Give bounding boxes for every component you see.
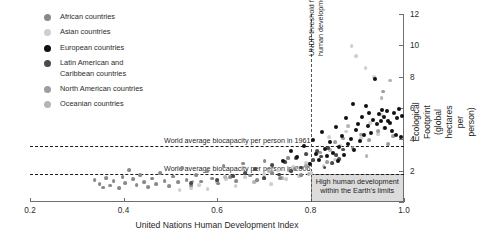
scatter-point	[222, 164, 226, 168]
scatter-point	[216, 182, 220, 186]
scatter-point	[379, 119, 383, 123]
scatter-point	[308, 162, 312, 166]
scatter-point	[325, 160, 329, 164]
y-tick-label: 12	[410, 10, 419, 19]
scatter-point	[350, 44, 354, 48]
scatter-point	[142, 181, 146, 185]
y-tick-mark	[399, 14, 404, 15]
scatter-point	[380, 108, 384, 112]
scatter-point	[121, 175, 125, 179]
scatter-point	[269, 182, 273, 186]
x-tick-mark	[217, 198, 218, 202]
scatter-point	[127, 168, 131, 172]
scatter-point	[171, 175, 175, 179]
scatter-point	[349, 137, 353, 141]
scatter-point	[354, 54, 358, 58]
scatter-point	[150, 177, 154, 181]
scatter-point	[293, 167, 297, 171]
y-tick-label: 10	[410, 41, 419, 50]
scatter-point	[159, 171, 163, 175]
y-tick-label: 8	[410, 72, 415, 81]
y-tick-mark	[399, 77, 404, 78]
y-tick-mark	[399, 45, 404, 46]
scatter-point	[231, 174, 235, 178]
scatter-point	[289, 149, 293, 153]
scatter-point	[234, 179, 238, 183]
scatter-point	[255, 178, 259, 182]
scatter-point	[377, 112, 381, 116]
scatter-point	[362, 133, 366, 137]
scatter-point	[248, 174, 252, 178]
x-axis-label: United Nations Human Development Index	[136, 220, 299, 230]
scatter-point	[224, 175, 228, 179]
scatter-point	[327, 135, 331, 139]
scatter-point	[342, 153, 346, 157]
x-tick-label: 0.8	[305, 206, 316, 215]
scatter-point	[215, 178, 219, 182]
scatter-point	[146, 185, 150, 189]
scatter-point	[375, 122, 379, 126]
scatter-point	[367, 111, 371, 115]
plot-area: High human development within the Earth'…	[30, 14, 404, 202]
scatter-point	[364, 66, 368, 70]
scatter-point	[346, 142, 350, 146]
scatter-point	[299, 173, 303, 177]
scatter-point	[206, 187, 210, 191]
scatter-point	[376, 129, 380, 133]
scatter-point	[323, 166, 327, 170]
scatter-point	[330, 161, 334, 165]
scatter-point	[352, 148, 356, 152]
scatter-point	[337, 145, 341, 149]
scatter-point	[311, 138, 315, 142]
scatter-point	[262, 176, 266, 180]
scatter-point	[382, 90, 386, 94]
scatter-point	[356, 122, 360, 126]
scatter-point	[307, 172, 311, 176]
scatter-point	[380, 96, 384, 100]
y-tick-mark	[399, 139, 404, 140]
scatter-point	[131, 177, 135, 181]
scatter-point	[270, 163, 274, 167]
scatter-point	[195, 173, 199, 177]
x-tick-label: 0.4	[118, 206, 129, 215]
scatter-point	[344, 116, 348, 120]
x-tick-label: 0.6	[211, 206, 222, 215]
biocapacity-reference-label: World average biocapacity per person in …	[164, 136, 311, 145]
scatter-point	[138, 173, 142, 177]
scatter-point	[180, 166, 184, 170]
scatter-point	[325, 154, 329, 158]
x-tick-mark	[404, 198, 405, 202]
biocapacity-reference-line	[30, 174, 404, 175]
y-tick-mark	[399, 171, 404, 172]
scatter-point	[364, 104, 368, 108]
x-tick-mark	[124, 198, 125, 202]
scatter-point	[394, 133, 398, 137]
scatter-point	[369, 131, 373, 135]
scatter-point	[334, 125, 338, 129]
scatter-point	[284, 177, 288, 181]
scatter-point	[189, 181, 193, 185]
scatter-point	[253, 167, 257, 171]
scatter-point	[365, 154, 369, 158]
scatter-point	[163, 179, 167, 183]
scatter-point	[367, 138, 371, 142]
scatter-point	[281, 159, 285, 163]
scatter-point	[270, 172, 274, 176]
scatter-point	[234, 184, 238, 188]
scatter-point	[351, 102, 355, 106]
scatter-point	[311, 159, 315, 163]
scatter-point	[366, 124, 370, 128]
scatter-point	[390, 129, 394, 133]
scatter-point	[302, 144, 306, 148]
scatter-point	[167, 184, 171, 188]
scatter-point	[117, 186, 121, 190]
scatter-point	[289, 170, 293, 174]
scatter-point	[112, 179, 116, 183]
scatter-point	[304, 152, 308, 156]
scatter-point	[344, 130, 348, 134]
scatter-point	[263, 159, 267, 163]
scatter-point	[371, 118, 375, 122]
scatter-point	[277, 173, 281, 177]
scatter-point	[199, 180, 203, 184]
